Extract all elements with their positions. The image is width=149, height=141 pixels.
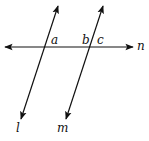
angle-label-b: b: [82, 34, 90, 46]
line-m: [66, 6, 103, 119]
line-l: [21, 6, 58, 119]
parallel-lines-diagram: [0, 0, 149, 141]
line-label-n: n: [137, 40, 145, 52]
line-label-l: l: [16, 122, 20, 134]
angle-label-a: a: [51, 34, 58, 46]
angle-label-c: c: [97, 34, 104, 46]
line-label-m: m: [57, 122, 68, 134]
